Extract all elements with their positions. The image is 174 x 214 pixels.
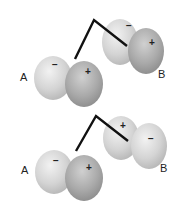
- orbital-b: − +: [102, 19, 164, 74]
- label-a: A: [21, 164, 29, 176]
- orbital-b: + −: [103, 116, 167, 169]
- orbital-a: − +: [35, 150, 103, 201]
- sign-a-left: −: [53, 155, 59, 166]
- sign-b-back: +: [120, 120, 126, 131]
- sign-b-front: −: [148, 133, 154, 144]
- orbital-diagram: A − + − + B A − + + −: [0, 0, 174, 214]
- sign-a-right: +: [86, 162, 92, 173]
- sign-a-right: +: [85, 66, 91, 77]
- lobe-a-plus: [65, 61, 103, 107]
- panel-top: A − + − + B: [20, 19, 165, 107]
- label-a: A: [20, 71, 28, 83]
- sign-a-left: −: [52, 59, 58, 70]
- sign-b-front: +: [149, 37, 155, 48]
- sign-b-back: −: [126, 20, 132, 31]
- panel-bottom: A − + + − B: [21, 116, 167, 201]
- orbital-a: − +: [34, 56, 103, 107]
- label-b: B: [158, 68, 165, 80]
- lobe-a-plus: [65, 155, 103, 201]
- label-b: B: [160, 162, 167, 174]
